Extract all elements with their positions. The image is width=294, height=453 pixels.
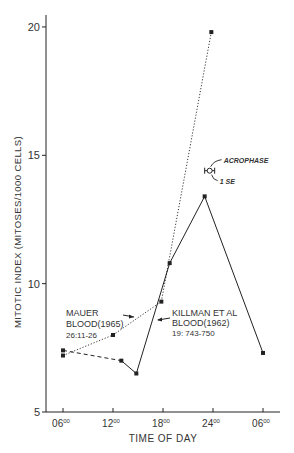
y-axis-label: MITOTIC INDEX (MITOSES/1000 CELLS): [12, 136, 23, 328]
se-label: 1 SE: [220, 178, 236, 185]
series-segment: [121, 361, 136, 374]
mauer-annotation-line: MAUER: [66, 308, 99, 318]
mauer-annotation-line: BLOOD(1965): [66, 319, 124, 329]
acrophase-arrow: [211, 160, 222, 167]
y-tick-label: 20: [28, 21, 40, 33]
series-segment: [63, 350, 121, 360]
y-tick-label: 15: [28, 149, 40, 161]
x-axis-label: TIME OF DAY: [129, 433, 198, 444]
x-tick-label: 2400: [202, 418, 220, 429]
acrophase-marker: [207, 168, 212, 173]
data-point: [134, 371, 138, 375]
data-point: [61, 354, 65, 358]
x-tick-label: 0600: [252, 418, 270, 429]
annotations-layer: ACROPHASE1 SEMAUERBLOOD(1965)26:11-26KIL…: [66, 157, 269, 340]
data-point: [203, 194, 207, 198]
x-tick-label: 1800: [152, 418, 170, 429]
killman-annotation-line: KILLMAN ET AL: [172, 308, 237, 318]
killman-annotation-line: BLOOD(1962): [172, 318, 230, 328]
data-point: [168, 261, 172, 265]
acrophase-label: ACROPHASE: [223, 157, 269, 164]
data-point: [159, 300, 163, 304]
mitotic-index-chart: 510152006001200180024000600TIME OF DAYMI…: [0, 0, 294, 453]
data-point: [111, 333, 115, 337]
killman-arrow-head: [157, 318, 162, 322]
series-segment: [136, 263, 169, 373]
data-point: [209, 30, 213, 34]
axes: 510152006001200180024000600TIME OF DAYMI…: [12, 15, 280, 444]
y-tick-label: 5: [34, 406, 40, 418]
x-tick-label: 1200: [102, 418, 120, 429]
data-point: [119, 359, 123, 363]
data-point: [61, 348, 65, 352]
mauer-annotation-line: 26:11-26: [66, 331, 98, 340]
x-tick-label: 0600: [52, 418, 70, 429]
y-tick-label: 10: [28, 278, 40, 290]
data-point: [261, 351, 265, 355]
killman-annotation-line: 19: 743-750: [172, 329, 215, 338]
se-arrow: [212, 175, 218, 181]
